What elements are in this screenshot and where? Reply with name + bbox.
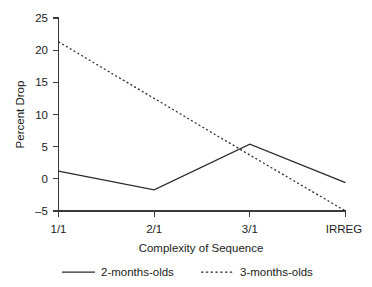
y-tick-label-10: 10 [35,109,48,121]
y-tick-label-minus5: –5 [35,205,48,217]
series-line-3-months-olds [59,42,346,211]
y-tick-label-15: 15 [35,76,48,88]
x-tick-label-irreg: IRREG [326,223,362,235]
line-chart: 25 20 15 10 5 0 –5 1/1 2/1 3/1 IRREG Per… [0,0,372,287]
x-axis-title: Complexity of Sequence [139,242,264,254]
y-tick-label-20: 20 [35,44,48,56]
y-tick-label-5: 5 [42,141,48,153]
legend: 2-months-olds 3-months-olds [62,266,313,278]
y-tick-label-0: 0 [42,173,48,185]
legend-label-2-months-olds: 2-months-olds [101,266,174,278]
legend-entry-2-months-olds: 2-months-olds [62,266,174,278]
x-tick-label-3-1: 3/1 [242,223,258,235]
y-axis-title: Percent Drop [14,81,26,149]
x-tick-label-1-1: 1/1 [51,223,67,235]
x-tick-label-2-1: 2/1 [146,223,162,235]
legend-label-3-months-olds: 3-months-olds [240,266,313,278]
chart-canvas: 25 20 15 10 5 0 –5 1/1 2/1 3/1 IRREG Per… [0,0,372,287]
y-tick-label-25: 25 [35,12,48,24]
series-line-2-months-olds [59,144,346,190]
legend-entry-3-months-olds: 3-months-olds [201,266,313,278]
